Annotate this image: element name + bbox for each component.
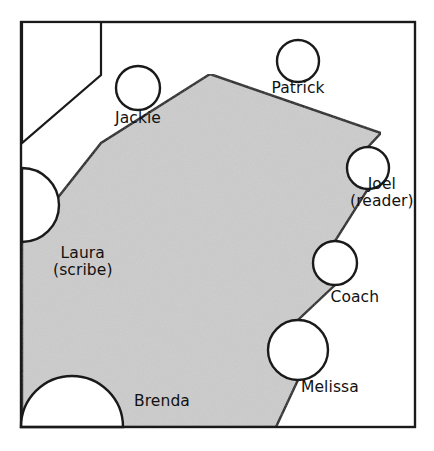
diagram-canvas <box>0 0 434 451</box>
seat-circle-melissa[interactable] <box>268 320 328 380</box>
seat-label-laura: Laura (scribe) <box>53 245 113 280</box>
seat-label-patrick: Patrick <box>272 80 325 97</box>
seat-label-coach: Coach <box>331 289 380 306</box>
seating-diagram: JackiePatrickJoel (reader)CoachMelissaLa… <box>0 0 434 451</box>
seat-label-joel: Joel (reader) <box>350 176 414 211</box>
seat-circle-jackie[interactable] <box>116 66 160 110</box>
seat-label-jackie: Jackie <box>115 110 161 127</box>
seat-label-melissa: Melissa <box>301 379 359 396</box>
seat-label-brenda: Brenda <box>134 393 190 410</box>
seat-circle-patrick[interactable] <box>277 40 319 82</box>
seat-circle-coach[interactable] <box>313 241 357 285</box>
